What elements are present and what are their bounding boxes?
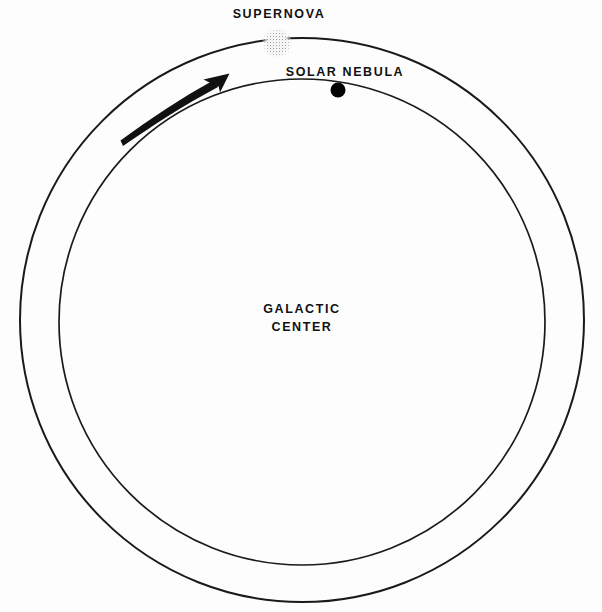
supernova-body: [262, 28, 293, 59]
solar-nebula-label: SOLAR NEBULA: [286, 65, 405, 79]
solar-nebula-body: [331, 83, 346, 98]
motion-arrow-head: [200, 74, 230, 94]
galactic-orbit-diagram: SUPERNOVA SOLAR NEBULA GALACTIC CENTER: [0, 0, 602, 612]
diagram-canvas: SUPERNOVA SOLAR NEBULA GALACTIC CENTER: [0, 0, 602, 612]
galactic-center-label-line1: GALACTIC: [263, 302, 340, 316]
motion-arrow: [121, 74, 230, 147]
motion-arrow-tail: [121, 80, 219, 146]
supernova-label: SUPERNOVA: [233, 7, 326, 21]
galactic-center-label-line2: CENTER: [272, 320, 333, 334]
